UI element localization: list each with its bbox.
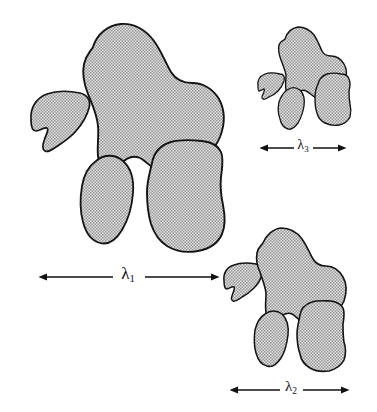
lambda-subscript-1: 1 <box>129 272 134 284</box>
blob-large-square <box>147 140 225 252</box>
figure-canvas: λ1 λ2 λ3 <box>0 0 377 412</box>
blob-small-square <box>315 73 351 125</box>
lambda-subscript-2: 2 <box>292 385 297 396</box>
blob-medium-square <box>297 301 346 372</box>
scaling-figure-root: λ1 λ2 λ3 <box>0 0 377 412</box>
lambda-subscript-3: 3 <box>304 144 309 154</box>
